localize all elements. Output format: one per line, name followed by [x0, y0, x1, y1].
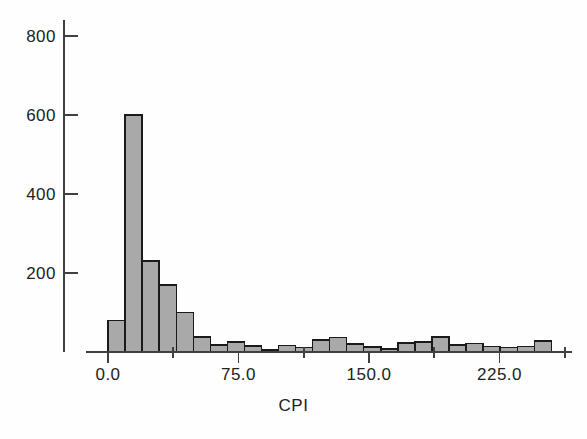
histogram-bar — [108, 320, 125, 352]
histogram-bar — [415, 342, 432, 352]
histogram-bar — [227, 342, 244, 352]
histogram-bar — [176, 313, 193, 353]
histogram-bar — [244, 346, 261, 352]
x-axis-tick-label: 150.0 — [346, 366, 391, 383]
histogram-bar — [159, 285, 176, 352]
histogram-bar — [466, 343, 483, 352]
x-axis-title: CPI — [0, 396, 587, 416]
histogram-bar — [125, 115, 142, 352]
histogram-bar — [142, 261, 159, 352]
histogram-bar — [330, 337, 347, 352]
histogram-bar — [398, 343, 415, 352]
histogram-bar — [517, 346, 534, 352]
x-axis-tick-label: 0.0 — [95, 366, 120, 383]
x-axis-tick-label: 75.0 — [221, 366, 256, 383]
histogram-bar — [279, 346, 296, 352]
x-axis-tick-label: 225.0 — [477, 366, 522, 383]
histogram-bar — [534, 341, 551, 352]
histogram-bar — [193, 337, 210, 352]
histogram-figure: 200400600800 0.075.0150.0225.0 CPI — [0, 0, 587, 439]
histogram-bars — [108, 115, 551, 352]
histogram-bar — [347, 344, 364, 352]
x-axis-tick-labels: 0.075.0150.0225.0 — [0, 366, 587, 392]
histogram-bar — [483, 346, 500, 352]
histogram-bar — [449, 345, 466, 352]
histogram-bar — [210, 345, 227, 352]
histogram-bar — [313, 340, 330, 352]
